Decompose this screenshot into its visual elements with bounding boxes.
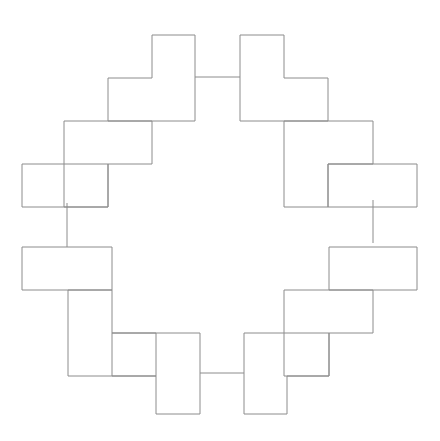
canvas-background	[0, 0, 440, 441]
geometric-figure-canvas: Rotationally symmetric ring of L-shaped …	[0, 0, 440, 441]
